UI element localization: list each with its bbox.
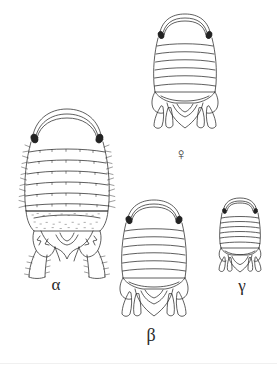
figure-female <box>143 12 227 142</box>
figure-gamma <box>212 196 268 278</box>
figure-label-beta: β <box>133 326 169 344</box>
figure-alpha <box>10 105 125 280</box>
figure-beta <box>110 198 198 326</box>
figure-label-female: ♀ <box>164 146 198 163</box>
figure-label-alpha: α <box>38 276 74 293</box>
illustration-plate: α <box>0 0 277 366</box>
scan-edge-artifact <box>0 363 277 364</box>
figure-label-gamma: γ <box>224 277 260 294</box>
